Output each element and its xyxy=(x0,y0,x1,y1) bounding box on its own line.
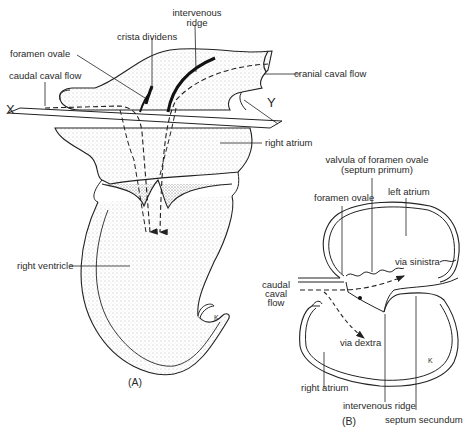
label-axis-y: Y xyxy=(267,98,276,108)
label-left-atrium: left atrium xyxy=(388,187,430,197)
label-caudal-line3: flow xyxy=(256,298,296,307)
label-cranial-caval-flow: cranial caval flow xyxy=(294,69,366,79)
label-right-atrium-a: right atrium xyxy=(265,138,313,148)
label-right-atrium-b: right atrium xyxy=(301,383,349,393)
label-septum-secundum: septum secundum xyxy=(385,415,463,425)
heart-diagram-figure xyxy=(0,0,474,435)
panel-a-label: (A) xyxy=(128,377,142,387)
label-intervenous-ridge: intervenous ridge xyxy=(172,8,222,28)
label-axis-x: X xyxy=(6,105,15,115)
label-caudal-caval-flow-b: caudal caval flow xyxy=(256,280,296,307)
panel-b-drawing xyxy=(298,178,459,410)
label-k-marker-b: K xyxy=(428,356,433,366)
label-foramen-ovale-a: foramen ovale xyxy=(10,49,70,59)
label-caudal-caval-flow-a: caudal caval flow xyxy=(9,71,81,81)
label-via-sinistra: via sinistra xyxy=(395,257,440,267)
label-valvula-line2: (septum primum) xyxy=(322,165,432,175)
label-via-dextra: via dextra xyxy=(340,338,381,348)
label-foramen-ovale-b: foramen ovale xyxy=(314,193,374,203)
panel-b-label: (B) xyxy=(342,416,356,426)
label-intervenous-ridge-line2: ridge xyxy=(172,18,222,28)
label-crista-dividens: crista dividens xyxy=(117,32,177,42)
label-k-marker-a: K xyxy=(214,313,219,323)
label-valvula-foramen-ovale: valvula of foramen ovale (septum primum) xyxy=(322,155,432,175)
label-right-ventricle: right ventricle xyxy=(17,261,74,271)
label-intervenous-ridge-b: intervenous ridge xyxy=(343,401,416,411)
